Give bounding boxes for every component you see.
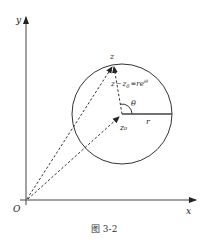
y-axis-label: y — [15, 15, 22, 25]
radius-r-label: r — [146, 117, 151, 126]
origin-label: O — [13, 204, 21, 214]
angle-theta-label: θ — [131, 99, 136, 108]
equation-label: z−z0=reiθ — [110, 79, 148, 89]
point-z-label: z — [109, 52, 115, 61]
complex-plane-diagram: y x O z z−z0=reiθ θ r z₀ 图 3-2 — [0, 0, 205, 242]
center-z0-label: z₀ — [119, 123, 127, 132]
svg-text:z−z0=reiθ: z−z0=reiθ — [110, 79, 148, 89]
figure-caption: 图 3-2 — [91, 224, 117, 234]
vector-z0-to-z — [114, 67, 122, 114]
vector-origin-to-z — [27, 67, 112, 199]
x-axis-label: x — [186, 206, 191, 216]
vector-origin-to-z0 — [28, 117, 119, 199]
